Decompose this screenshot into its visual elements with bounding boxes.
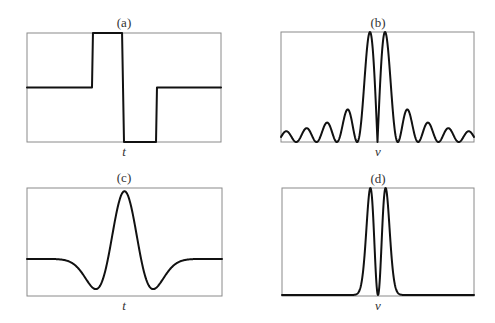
panel-a-xlabel: t bbox=[122, 144, 126, 159]
panel-c-frame bbox=[27, 188, 222, 296]
panel-c-xlabel: t bbox=[122, 298, 126, 313]
panel-d-xlabel: ν bbox=[375, 298, 381, 313]
panel-b-title: (b) bbox=[370, 15, 385, 30]
panel-d-frame bbox=[282, 188, 474, 296]
panel-d-title: (d) bbox=[370, 171, 385, 186]
panel-a-curve bbox=[27, 33, 221, 142]
panel-d: (d) ν bbox=[282, 171, 474, 313]
panel-b-xlabel: ν bbox=[375, 144, 381, 159]
panel-c-title: (c) bbox=[117, 170, 131, 185]
panel-c: (c) t bbox=[27, 170, 222, 313]
panel-b-curve bbox=[281, 32, 474, 142]
panel-c-curve bbox=[27, 191, 222, 289]
panel-a-title: (a) bbox=[117, 15, 131, 30]
figure: (a) t (b) ν (c) t (d) ν bbox=[0, 0, 495, 323]
panel-b: (b) ν bbox=[281, 15, 474, 159]
panel-a: (a) t bbox=[27, 15, 221, 159]
panel-d-curve bbox=[282, 188, 474, 295]
